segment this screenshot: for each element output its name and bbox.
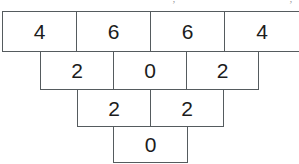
pyramid-cell: 6 [150,11,225,52]
scan-artifact-strip: ’ ’ [0,0,299,9]
pyramid-cell: 0 [113,126,188,163]
pyramid-cell: 6 [76,11,151,52]
pyramid-cell: 2 [77,89,151,127]
pyramid-row-3: 2 2 [77,89,224,127]
pyramid-cell: 4 [224,11,299,52]
pyramid-cell: 4 [2,11,77,52]
pyramid-cell: 2 [186,51,259,90]
pyramid-row-1: 4 6 6 4 [2,11,299,52]
pyramid-cell: 2 [40,51,114,90]
cropped-text-fragment-left: ’ [172,0,176,9]
cropped-text-fragment-right: ’ [289,0,293,9]
pyramid-cell: 0 [113,51,187,90]
number-pyramid-figure: ’ ’ 4 6 6 4 2 0 2 2 2 0 [0,0,299,164]
pyramid-row-4: 0 [113,126,188,163]
pyramid-cell: 2 [150,89,224,127]
pyramid-row-2: 2 0 2 [40,51,259,90]
